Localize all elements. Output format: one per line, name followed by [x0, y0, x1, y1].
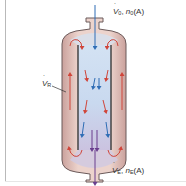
inlet-label: V0, n0(A): [113, 7, 144, 18]
recycle-label: VR: [42, 79, 51, 90]
reactor-diagram: [0, 0, 186, 186]
vessel-shell: [62, 18, 126, 182]
outlet-label: VE, nE(A): [112, 166, 144, 177]
